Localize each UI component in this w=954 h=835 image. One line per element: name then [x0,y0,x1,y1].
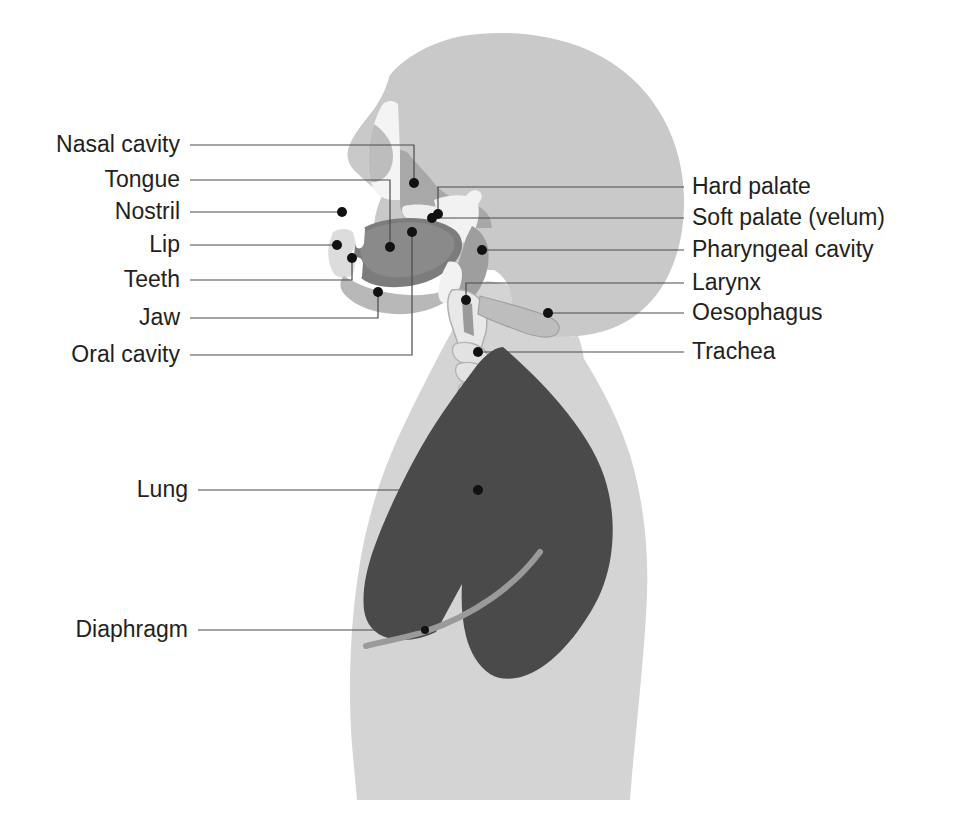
label-tongue[interactable]: Tongue [105,166,180,192]
label-pharyngeal-cavity[interactable]: Pharyngeal cavity [692,236,874,262]
label-jaw[interactable]: Jaw [139,304,180,330]
diagram-canvas: Nasal cavity Tongue Nostril Lip Teeth Ja… [0,0,954,835]
dot-lip [332,240,342,250]
dot-teeth [347,253,357,263]
label-lung[interactable]: Lung [137,476,188,502]
skull-and-face [328,75,494,314]
dot-trachea [473,347,483,357]
dot-nasal-cavity [409,178,419,188]
dot-lung [473,485,483,495]
label-soft-palate[interactable]: Soft palate (velum) [692,204,885,230]
label-nasal-cavity[interactable]: Nasal cavity [56,131,180,157]
dot-oral-cavity [407,227,417,237]
labels-left: Nasal cavity Tongue Nostril Lip Teeth Ja… [56,131,188,642]
label-hard-palate[interactable]: Hard palate [692,173,811,199]
dot-larynx [461,295,471,305]
label-teeth[interactable]: Teeth [124,266,180,292]
dot-tongue [385,242,395,252]
dot-jaw [373,287,383,297]
dot-pharyngeal-cavity [477,245,487,255]
label-nostril[interactable]: Nostril [115,198,180,224]
dot-soft-palate [427,213,437,223]
leader-teeth [190,258,352,280]
label-lip[interactable]: Lip [149,231,180,257]
label-oesophagus[interactable]: Oesophagus [692,299,822,325]
dot-diaphragm [421,626,429,634]
vocal-tract-diagram: Nasal cavity Tongue Nostril Lip Teeth Ja… [0,0,954,835]
label-diaphragm[interactable]: Diaphragm [76,616,189,642]
label-trachea[interactable]: Trachea [692,338,776,364]
labels-right: Hard palate Soft palate (velum) Pharynge… [692,173,885,364]
label-larynx[interactable]: Larynx [692,269,762,295]
dot-oesophagus [543,308,553,318]
label-oral-cavity[interactable]: Oral cavity [71,341,180,367]
dot-nostril [337,207,347,217]
